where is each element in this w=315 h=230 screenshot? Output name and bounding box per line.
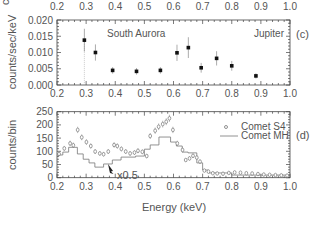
x-tick-label: 0.6 (167, 181, 181, 192)
x-tick-label: 0.8 (225, 88, 239, 99)
data-point (72, 143, 75, 147)
x-tick-label-top: 1.0 (283, 1, 297, 12)
annotation-jupiter: Jupiter (254, 28, 285, 39)
data-point (149, 134, 152, 138)
x-tick-label: 0.3 (79, 181, 93, 192)
x-tick-label: 0.9 (254, 88, 268, 99)
data-point (85, 140, 88, 144)
panel-d: 0501001502002500.20.30.40.50.60.70.80.91… (36, 106, 297, 192)
data-point (254, 74, 258, 78)
data-point (102, 152, 105, 156)
data-point (215, 57, 219, 61)
data-point (80, 136, 83, 140)
panel-d-label: (d) (296, 129, 309, 141)
x-tick-label: 0.6 (167, 88, 181, 99)
y-tick-label: 150 (36, 133, 53, 144)
data-point (245, 171, 248, 175)
x-tick-label: 0.9 (254, 181, 268, 192)
data-point (157, 125, 160, 129)
data-point (216, 172, 219, 176)
data-point (116, 144, 119, 148)
data-point (199, 160, 202, 164)
x-tick-label-top: 0.8 (225, 1, 239, 12)
data-point (137, 149, 140, 153)
data-point (286, 174, 289, 178)
x-tick-label-top: 0.7 (196, 1, 210, 12)
data-point (280, 174, 283, 178)
data-point (113, 143, 116, 147)
data-point (222, 172, 225, 176)
x-tick-label: 0.2 (50, 181, 64, 192)
cut-ylabel-fragment: c (0, 0, 11, 5)
x-tick-label-top: 0.3 (79, 1, 93, 12)
data-point (135, 70, 139, 74)
data-point (168, 117, 171, 121)
data-point (161, 122, 164, 126)
data-point (274, 173, 277, 177)
data-point (230, 64, 234, 68)
data-point (199, 66, 203, 70)
x-tick-label: 0.4 (108, 181, 122, 192)
legend: Comet S4 Comet MH (220, 121, 289, 141)
comet-mh-histogram (57, 137, 290, 175)
data-point (145, 154, 148, 158)
panel-c-label: (c) (296, 28, 309, 40)
data-point (141, 150, 144, 154)
x-tick-label-top: 0.4 (108, 1, 122, 12)
data-point (203, 169, 206, 173)
legend-label-comet-mh: Comet MH (241, 130, 289, 141)
y-tick-label: 0.010 (28, 47, 53, 58)
x-tick-label: 0.7 (196, 88, 210, 99)
data-point (187, 46, 191, 50)
data-point (227, 171, 230, 175)
data-point (89, 144, 92, 148)
data-point (192, 154, 195, 158)
annotation-south-aurora: South Aurora (107, 28, 166, 39)
data-point (195, 156, 198, 160)
data-point (94, 51, 98, 55)
data-point (175, 51, 179, 55)
data-point (176, 142, 179, 146)
data-point (257, 172, 260, 176)
data-point (120, 147, 123, 151)
top-axis-tick-labels: 0.20.30.40.50.60.70.80.91.0 (50, 1, 297, 12)
data-point (154, 129, 157, 133)
x-tick-label-top: 0.9 (254, 1, 268, 12)
arrow-icon (108, 164, 114, 174)
x-tick-label: 0.7 (196, 181, 210, 192)
y-tick-label: 0.015 (28, 31, 53, 42)
data-point (159, 69, 163, 73)
data-point (129, 152, 132, 156)
y-tick-label: 0.020 (28, 15, 53, 26)
data-point (233, 171, 236, 175)
data-point (98, 152, 101, 156)
legend-marker-comet-s4 (225, 126, 228, 129)
y-tick-label: 0.005 (28, 63, 53, 74)
x-tick-label-top: 0.6 (167, 1, 181, 12)
x-tick-label: 0.2 (50, 88, 64, 99)
data-point (172, 128, 175, 132)
data-point (58, 152, 61, 156)
data-point (94, 150, 97, 154)
data-point (111, 69, 115, 73)
x-tick-label: 0.5 (137, 88, 151, 99)
data-point (184, 158, 187, 162)
x-axis-label: Energy (keV) (142, 201, 206, 213)
data-point (133, 151, 136, 155)
data-point (107, 150, 110, 154)
x-tick-label-top: 0.2 (50, 1, 64, 12)
x-tick-label: 0.3 (79, 88, 93, 99)
data-point (69, 142, 72, 146)
data-point (211, 171, 214, 175)
data-point (124, 150, 127, 154)
y-axis-label-top: counts/sec/keV (6, 14, 18, 89)
data-point (268, 173, 271, 177)
figure: c 0.20.30.40.50.60.70.80.91.0 0.0000.005… (0, 0, 315, 230)
x-tick-label: 0.5 (137, 181, 151, 192)
y-tick-label: 50 (42, 159, 54, 170)
data-point (63, 147, 66, 151)
y-tick-label: 200 (36, 119, 53, 130)
data-point (76, 128, 79, 132)
x-tick-label: 0.4 (108, 88, 122, 99)
x-tick-label: 0.8 (225, 181, 239, 192)
